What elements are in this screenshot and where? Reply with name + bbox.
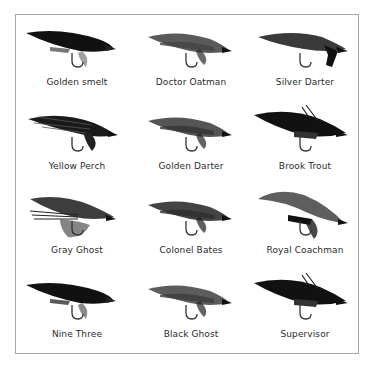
fly-label: Black Ghost [134,329,248,339]
fly-label: Yellow Perch [20,161,134,171]
fly-label: Golden smelt [20,77,134,87]
fly-label: Supervisor [248,329,362,339]
fly-cell: Brook Trout [248,101,362,185]
fly-cell: Golden Darter [134,101,248,185]
fly-cell: Yellow Perch [20,101,134,185]
fly-label: Royal Coachman [248,245,362,255]
fly-cell: Nine Three [20,269,134,353]
fly-cell: Golden smelt [20,17,134,101]
fly-label: Colonel Bates [134,245,248,255]
fly-cell: Supervisor [248,269,362,353]
fly-label: Brook Trout [248,161,362,171]
fly-label: Silver Darter [248,77,362,87]
fly-label: Nine Three [20,329,134,339]
fly-cell: Doctor Oatman [134,17,248,101]
fly-cell: Colonel Bates [134,185,248,269]
fly-cell: Black Ghost [134,269,248,353]
fly-cell: Royal Coachman [248,185,362,269]
fly-cell: Silver Darter [248,17,362,101]
fly-label: Gray Ghost [20,245,134,255]
fly-label: Doctor Oatman [134,77,248,87]
fly-label: Golden Darter [134,161,248,171]
fly-chart-frame: Golden smeltDoctor OatmanSilver DarterYe… [15,14,359,354]
fly-cell: Gray Ghost [20,185,134,269]
